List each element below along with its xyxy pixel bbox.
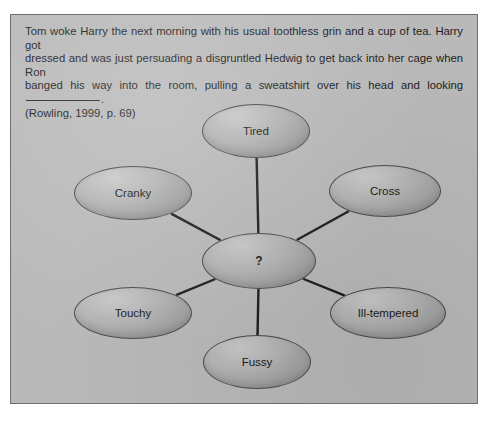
prompt-line-2: dressed and was just persuading a disgru… [25, 52, 463, 79]
connector-tired [257, 158, 259, 233]
concept-node-ill-tempered: Ill-tempered [330, 287, 446, 339]
connector-fussy [258, 289, 259, 335]
concept-map: TiredCrankyCrossIll-temperedTouchyFussy? [11, 89, 477, 403]
concept-node-label: Tired [243, 125, 269, 137]
concept-node-fussy: Fussy [203, 335, 311, 389]
concept-node-center: ? [202, 233, 316, 289]
concept-node-label: Touchy [115, 307, 151, 319]
figure-panel: Tom woke Harry the next morning with his… [10, 14, 478, 404]
concept-node-cross: Cross [329, 165, 441, 217]
concept-node-label: Cranky [115, 187, 151, 199]
connector-touchy [176, 279, 215, 295]
connector-cross [297, 211, 349, 240]
prompt-line-1: Tom woke Harry the next morning with his… [25, 25, 463, 52]
concept-node-label: Fussy [242, 356, 273, 368]
concept-node-tired: Tired [202, 104, 310, 158]
concept-node-touchy: Touchy [74, 287, 192, 339]
concept-node-cranky: Cranky [74, 166, 192, 220]
connector-cranky [171, 214, 220, 241]
concept-node-label: Ill-tempered [358, 307, 419, 319]
concept-node-label: ? [255, 254, 262, 268]
concept-node-label: Cross [370, 185, 400, 197]
connector-ill-tempered [303, 279, 345, 296]
